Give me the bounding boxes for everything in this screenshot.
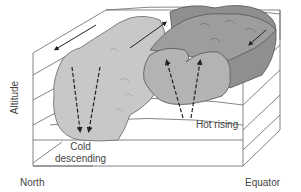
hot-rising-label: Hot rising	[196, 119, 238, 130]
equator-label: Equator	[245, 177, 280, 188]
convection-diagram	[0, 0, 301, 192]
cold-label-line1: Cold	[55, 141, 106, 153]
cold-descending-label: Cold descending	[55, 141, 106, 165]
north-label: North	[20, 177, 44, 188]
cold-label-line2: descending	[55, 153, 106, 165]
hot-cell-front	[144, 48, 231, 104]
altitude-axis-label: Altitude	[9, 81, 20, 114]
